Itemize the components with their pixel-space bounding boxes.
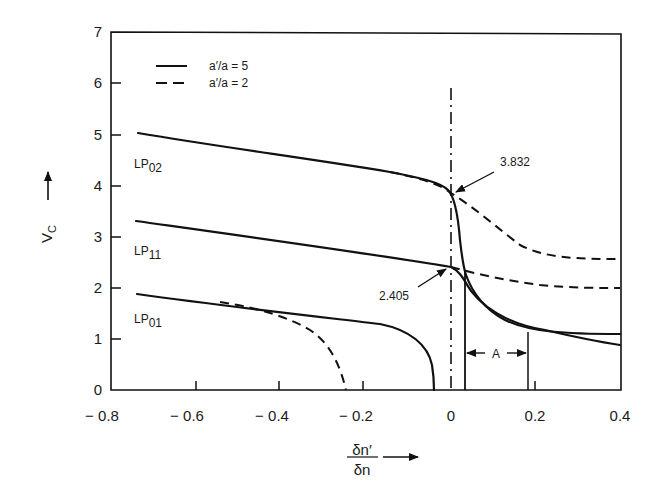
svg-text:2.405: 2.405: [379, 289, 409, 303]
curve-lp11-solid: [136, 221, 620, 345]
x-tick-0.2: 0.2: [525, 407, 546, 424]
legend-solid-label: a′/a = 5: [209, 59, 249, 73]
x-tick-0: 0: [447, 407, 455, 424]
x-tick-neg0.8: − 0.8: [85, 407, 119, 424]
x-tick-0.4: 0.4: [610, 407, 631, 424]
label-lp11: LP11: [134, 244, 161, 262]
y-tick-labels: 0 1 2 3 4 5 6 7: [94, 23, 102, 398]
y-axis-label: VC: [38, 172, 58, 243]
x-tick-neg0.4: − 0.4: [255, 407, 289, 424]
interval-a: A: [467, 347, 526, 361]
svg-text:δn′: δn′: [352, 441, 372, 458]
label-lp01: LP01: [134, 312, 162, 330]
x-tick-neg0.6: − 0.6: [170, 407, 204, 424]
y-tick-4: 4: [94, 177, 102, 194]
legend: a′/a = 5 a′/a = 2: [156, 59, 249, 90]
y-tick-3: 3: [94, 228, 102, 245]
annotation-3832: 3.832: [456, 155, 530, 192]
y-tick-7: 7: [94, 23, 102, 40]
y-axis-ticks: [111, 83, 121, 339]
curve-lp11-dashed: [451, 267, 620, 288]
y-tick-2: 2: [94, 279, 102, 296]
plot-frame: [111, 32, 621, 390]
svg-text:A: A: [492, 347, 500, 361]
x-tick-neg0.2: − 0.2: [339, 407, 373, 424]
y-tick-1: 1: [94, 330, 102, 347]
svg-text:3.832: 3.832: [500, 155, 530, 169]
curve-lp02-dashed: [390, 172, 620, 259]
x-axis-ticks: [196, 381, 535, 390]
legend-dashed-label: a′/a = 2: [209, 76, 249, 90]
label-lp02: LP02: [134, 157, 162, 175]
svg-text:VC: VC: [38, 225, 58, 243]
y-tick-0: 0: [94, 381, 102, 398]
y-tick-5: 5: [94, 126, 102, 143]
mode-labels: LP02 LP11 LP01: [134, 157, 162, 330]
curve-lp01-solid: [137, 294, 434, 390]
x-axis-label: δn′ δn: [347, 441, 418, 478]
x-tick-labels: − 0.8 − 0.6 − 0.4 − 0.2 0 0.2 0.4: [85, 407, 630, 424]
svg-text:δn: δn: [354, 461, 371, 478]
annotation-2405: 2.405: [379, 269, 446, 303]
chart: 0 1 2 3 4 5 6 7 − 0.8 − 0.6 − 0.4 − 0.2 …: [0, 0, 659, 498]
y-tick-6: 6: [94, 74, 102, 91]
curve-lp01-dashed: [220, 302, 346, 390]
